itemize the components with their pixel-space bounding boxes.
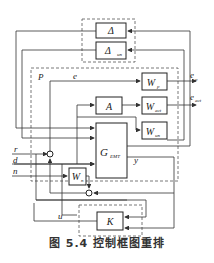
e-label: e — [73, 71, 77, 81]
delta-un-sub: un — [117, 52, 123, 57]
wact-sub: act — [155, 108, 162, 113]
figure-caption: 图 5.4 控制框图重排 — [0, 234, 214, 250]
delta-label: Δ — [107, 25, 114, 36]
wp-sub: p — [156, 84, 160, 89]
u-label: u — [58, 211, 63, 221]
wun-sub: un — [155, 133, 161, 138]
ep-label: e — [190, 70, 194, 80]
eact-label: e — [190, 92, 194, 102]
g-sub: EMT — [109, 154, 121, 159]
P-label: P — [37, 72, 44, 82]
d-label: d — [13, 155, 18, 165]
n-label: n — [13, 166, 18, 176]
eact-sub: act — [195, 98, 202, 103]
g-label: G — [100, 146, 108, 158]
block-diagram: Δ Δ un W p A W act W un G EMT W n K P e … — [0, 0, 214, 263]
a-label: A — [105, 101, 113, 112]
r-label: r — [14, 144, 18, 154]
k-label: K — [106, 216, 115, 227]
ep-sub: p — [194, 77, 198, 82]
sum-junction-noise — [86, 190, 92, 196]
y-label: y — [133, 155, 138, 165]
delta-un-label: Δ — [104, 45, 111, 56]
